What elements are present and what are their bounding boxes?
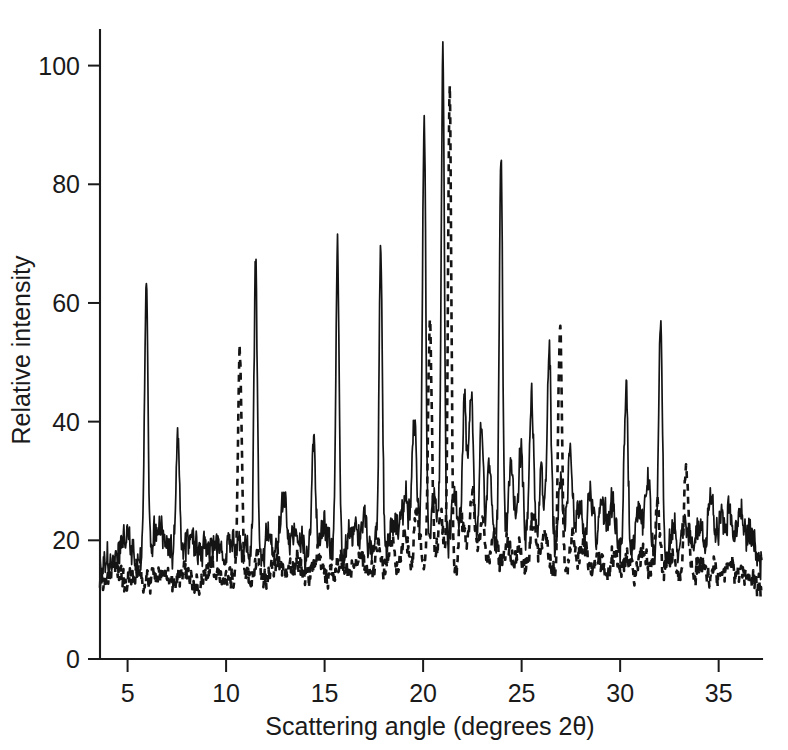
x-tick-label: 35	[705, 679, 733, 707]
data-traces	[100, 42, 762, 597]
trace-sample-solid	[100, 42, 762, 583]
figure-container: 020406080100 5101520253035 Scattering an…	[0, 0, 788, 750]
y-axis-title: Relative intensity	[7, 255, 35, 444]
xrd-diffraction-chart: 020406080100 5101520253035 Scattering an…	[0, 0, 788, 750]
x-tick-label: 30	[606, 679, 634, 707]
y-tick-label: 0	[66, 645, 80, 673]
axes	[100, 30, 762, 659]
x-tick-label: 5	[121, 679, 135, 707]
y-tick-label: 100	[38, 52, 80, 80]
x-tick-label: 15	[311, 679, 339, 707]
x-axis-title: Scattering angle (degrees 2θ)	[265, 712, 594, 740]
y-tick-label: 40	[52, 408, 80, 436]
x-axis-ticks: 5101520253035	[121, 659, 733, 707]
x-tick-label: 20	[409, 679, 437, 707]
x-tick-label: 10	[212, 679, 240, 707]
x-tick-label: 25	[508, 679, 536, 707]
y-tick-label: 60	[52, 289, 80, 317]
y-tick-label: 80	[52, 170, 80, 198]
y-axis-ticks: 020406080100	[38, 52, 100, 673]
y-tick-label: 20	[52, 526, 80, 554]
